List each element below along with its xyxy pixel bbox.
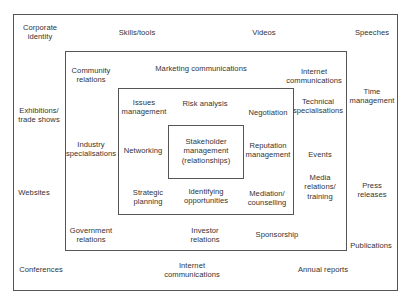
- label-technical-specialisations: Technical specialisations: [293, 97, 343, 116]
- label-skills-tools: Skills/tools: [119, 28, 155, 37]
- label-stakeholder-management: Stakeholder management (relationships): [182, 137, 230, 165]
- label-time-management: Time management: [350, 87, 395, 106]
- label-networking: Networking: [124, 146, 162, 155]
- label-corporate-identity: Corporate identity: [23, 23, 57, 42]
- label-conferences: Conferences: [19, 265, 63, 274]
- label-marketing-communications: Marketing communications: [155, 64, 247, 73]
- label-press-releases: Press releases: [357, 181, 386, 200]
- label-risk-analysis: Risk analysis: [183, 99, 228, 108]
- label-community-relations: Community relations: [72, 66, 111, 85]
- label-identifying-opportunities: Identifying opportunities: [184, 187, 228, 206]
- label-internet-communications-inner: Internet communications: [286, 67, 342, 86]
- label-publications: Publications: [350, 241, 392, 250]
- label-negotiation: Negotiation: [249, 108, 288, 117]
- label-investor-relations: Investor relations: [190, 226, 219, 245]
- label-speeches: Speeches: [355, 28, 389, 37]
- label-videos: Videos: [252, 28, 275, 37]
- label-events: Events: [308, 150, 332, 159]
- label-internet-communications-outer: Internet communications: [164, 261, 220, 280]
- label-sponsorship: Sponsorship: [256, 230, 299, 239]
- label-websites: Websites: [18, 188, 50, 197]
- label-reputation-management: Reputation management: [246, 141, 291, 160]
- label-exhibitions-trade-shows: Exhibitions/ trade shows: [18, 106, 60, 125]
- label-industry-specialisations: Industry specialisations: [66, 140, 116, 159]
- label-government-relations: Government relations: [70, 226, 112, 245]
- label-mediation-counselling: Mediation/ counselling: [248, 189, 287, 208]
- label-issues-management: Issues management: [122, 98, 167, 117]
- label-strategic-planning: Strategic planning: [133, 188, 163, 207]
- label-media-relations-training: Media relations/ training: [304, 173, 335, 201]
- label-annual-reports: Annual reports: [298, 265, 348, 274]
